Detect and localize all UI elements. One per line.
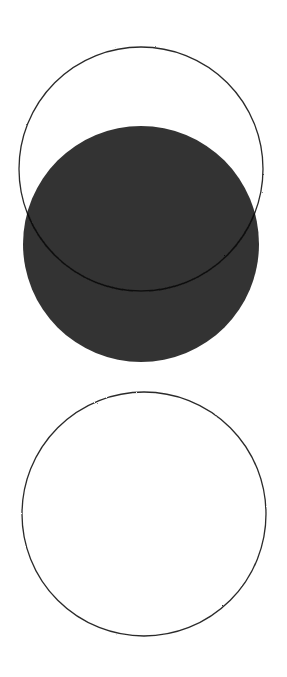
- lower-outline-circle: [22, 392, 266, 636]
- diagram-canvas: [0, 0, 287, 677]
- filled-dark-circle: [23, 126, 259, 362]
